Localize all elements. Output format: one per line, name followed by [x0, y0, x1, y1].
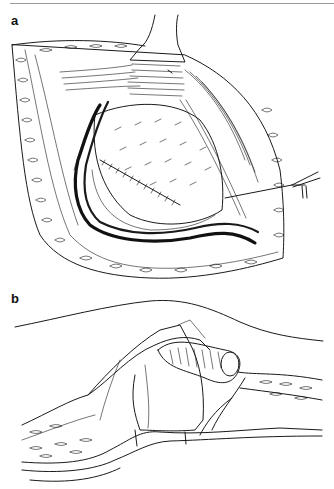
panel-b-illustration — [15, 300, 323, 481]
body-contour — [15, 300, 323, 341]
figure-illustration — [0, 0, 334, 489]
tubular-structure — [158, 342, 240, 383]
needle-holder — [292, 172, 320, 187]
panel-a-illustration — [12, 15, 320, 278]
tissue-flap — [88, 325, 203, 431]
organ — [94, 104, 223, 224]
tube-opening — [221, 352, 239, 376]
